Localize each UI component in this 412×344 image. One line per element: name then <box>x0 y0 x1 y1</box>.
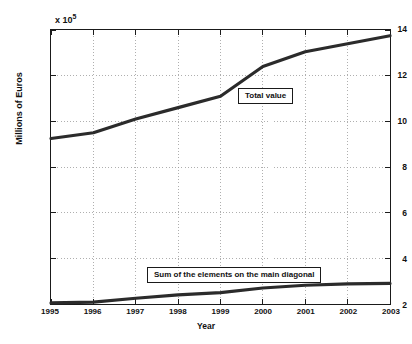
y-tick-label-6: 6 <box>366 209 412 218</box>
x-tick-label-1996: 1996 <box>71 308 115 316</box>
y-axis-title: Millions of Euros <box>15 44 24 174</box>
x-tick-label-2001: 2001 <box>284 308 328 316</box>
data-series-lines <box>51 30 390 304</box>
y-tick-label-10: 10 <box>366 117 412 126</box>
annotation-total-value: Total value <box>238 88 293 104</box>
series-line-1 <box>51 36 390 139</box>
x-tick-label-2000: 2000 <box>241 308 285 316</box>
plot-area <box>50 29 391 305</box>
x-tick-label-2002: 2002 <box>326 308 370 316</box>
x-tick-label-1999: 1999 <box>199 308 243 316</box>
y-tick-label-8: 8 <box>366 163 412 172</box>
y-axis-exponent-label: x 105 <box>55 13 76 25</box>
series-line-2 <box>51 283 390 302</box>
x-tick-label-1998: 1998 <box>156 308 200 316</box>
y-tick-label-4: 4 <box>366 255 412 264</box>
chart-figure: x 105 2468101214 19951996199719981999200… <box>0 0 412 344</box>
y-axis-exponent-prefix: x 10 <box>55 15 73 25</box>
y-tick-label-14: 14 <box>366 25 412 34</box>
x-tick-label-2003: 2003 <box>369 308 412 316</box>
y-tick-label-12: 12 <box>366 71 412 80</box>
x-tick-label-1995: 1995 <box>28 308 72 316</box>
x-axis-title: Year <box>0 322 412 331</box>
annotation-main-diagonal: Sum of the elements on the main diagonal <box>147 267 321 283</box>
x-tick-label-1997: 1997 <box>113 308 157 316</box>
y-axis-exponent-power: 5 <box>73 13 77 20</box>
